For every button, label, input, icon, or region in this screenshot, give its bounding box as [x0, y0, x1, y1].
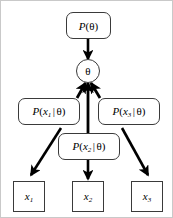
edge-likelihood-3-to-theta — [91, 83, 100, 98]
node-observation-2-label: x2 — [84, 190, 92, 204]
edge-likelihood-1-to-x1 — [31, 128, 61, 175]
node-likelihood-2[interactable]: P(x2|θ) — [58, 133, 120, 160]
node-likelihood-3[interactable]: P(x3|θ) — [98, 98, 160, 125]
node-observation-3[interactable]: x3 — [131, 181, 163, 212]
node-theta[interactable]: θ — [76, 59, 100, 83]
node-theta-label: θ — [85, 65, 90, 77]
node-likelihood-1-label: P(x1|θ) — [33, 105, 66, 119]
node-observation-2[interactable]: x2 — [72, 181, 104, 212]
node-observation-3-label: x3 — [143, 190, 151, 204]
edge-likelihood-1-to-theta — [77, 83, 86, 98]
node-observation-1[interactable]: x1 — [13, 181, 45, 212]
edge-likelihood-3-to-x3 — [122, 128, 148, 175]
node-likelihood-1[interactable]: P(x1|θ) — [18, 98, 80, 125]
diagram-canvas: P(θ) θ P(x1|θ) P(x3|θ) P(x2|θ) x1 x2 — [0, 0, 173, 218]
node-prior-label: P(θ) — [79, 20, 98, 32]
node-prior[interactable]: P(θ) — [66, 12, 111, 39]
node-likelihood-3-label: P(x3|θ) — [113, 105, 146, 119]
node-observation-1-label: x1 — [25, 190, 33, 204]
node-likelihood-2-label: P(x2|θ) — [73, 140, 106, 154]
